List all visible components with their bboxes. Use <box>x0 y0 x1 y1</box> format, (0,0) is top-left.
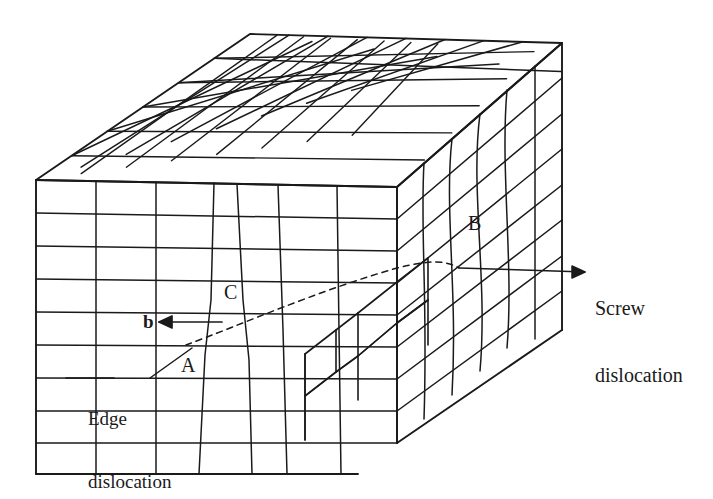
burgers-vector-label: b <box>143 311 154 332</box>
point-c-label: C <box>224 281 237 303</box>
screw-leader-arrow <box>459 266 585 278</box>
edge-dislocation-label: Edge dislocation <box>88 365 171 499</box>
edge-extra-half-plane <box>199 183 214 474</box>
point-b-label: B <box>468 212 481 234</box>
right-face-grid <box>397 43 562 443</box>
screw-dislocation-label-line1: Screw <box>595 297 683 319</box>
burgers-vector-arrow <box>159 316 222 328</box>
dislocation-line-dashed <box>186 262 459 345</box>
front-bottom-edge <box>358 443 397 474</box>
screw-dislocation-label-line2: dislocation <box>595 364 683 386</box>
screw-dislocation-label: Screw dislocation <box>595 252 683 431</box>
top-face-grid-clean <box>72 35 562 187</box>
edge-dislocation-label-line2: dislocation <box>88 471 171 492</box>
step-shelf <box>305 323 397 396</box>
edge-dislocation-label-line1: Edge <box>88 408 171 429</box>
figure-canvas: Screw dislocation Edge dislocation A B C… <box>0 0 713 499</box>
point-a-label: A <box>181 354 195 376</box>
